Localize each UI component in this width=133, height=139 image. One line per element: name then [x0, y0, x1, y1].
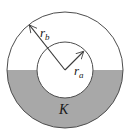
outer-radius-label: rb: [40, 24, 50, 40]
shaded-region-label: K: [59, 103, 68, 117]
inner-radius-label: ra: [74, 62, 84, 78]
outer-radius-label-subscript: b: [45, 32, 50, 42]
radii-diagram-figure: rb ra K: [0, 0, 133, 139]
inner-radius-label-subscript: a: [79, 70, 84, 80]
diagram-canvas: [0, 0, 133, 139]
